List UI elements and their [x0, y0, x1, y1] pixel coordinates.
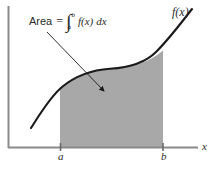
x-tick-label-b: b — [161, 150, 167, 162]
curve-label-fx: f(x) — [172, 5, 189, 20]
area-formula-annotation: Area = ∫ b a f(x) dx — [29, 11, 107, 31]
integral-area-figure: Area = ∫ b a f(x) dx f(x) a b x — [0, 0, 216, 170]
integral-expression: ∫ b a f(x) dx — [66, 11, 107, 31]
shaded-area-region — [60, 51, 163, 148]
integral-upper-limit: b — [72, 12, 76, 19]
integral-limits: b a — [71, 12, 76, 31]
x-axis-label: x — [202, 140, 207, 152]
differential-dx: dx — [96, 15, 106, 27]
integrand-expression: f(x) — [78, 15, 93, 27]
area-word-label: Area — [29, 15, 52, 27]
equals-sign: = — [56, 14, 63, 29]
integral-lower-limit: a — [68, 24, 76, 31]
x-tick-label-a: a — [58, 150, 64, 162]
